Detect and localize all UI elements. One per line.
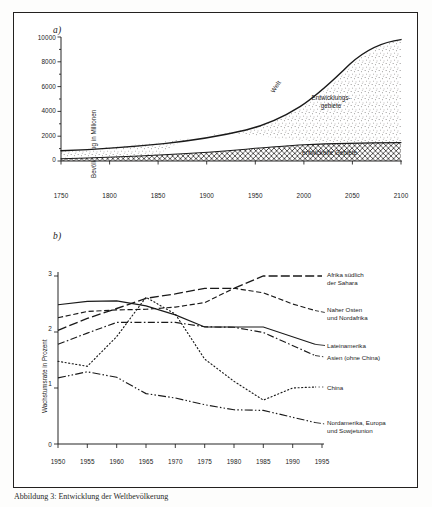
panel-b-label-asien: Asien (ohne China) — [327, 354, 380, 362]
panel-b-leader-lines — [315, 311, 325, 425]
panel-b-label-lateinamerika: Lateinamerika — [327, 342, 366, 350]
panel-b-label-naher-osten-line2: und Nordafrika — [327, 314, 368, 322]
panel-b-label-china-line1: China — [327, 384, 343, 392]
figure-caption: Abbildung 3: Entwicklung der Weltbevölke… — [14, 492, 418, 507]
panel-b-label-lateinamerika-line1: Lateinamerika — [327, 342, 366, 350]
panel-b-label-naher-osten-line1: Naher Osten — [327, 306, 368, 314]
panel-b-label-naher-osten: Naher Osten und Nordafrika — [327, 306, 368, 322]
panel-b-plot — [14, 13, 419, 489]
panel-b-series-nordamerika — [58, 372, 315, 423]
panel-b-label-china: China — [327, 384, 343, 392]
panel-b-label-nordamerika-line2: und Sowjetunion — [327, 427, 386, 435]
panel-b-y-ticks — [54, 276, 58, 444]
panel-b-series-china — [58, 297, 315, 400]
figure-page: a) Bevölkerung in Millionen 0 2000 4000 … — [0, 0, 432, 507]
panel-b-series-afrika — [58, 276, 322, 330]
panel-b-series-naher-osten — [58, 288, 315, 317]
figure-frame: a) Bevölkerung in Millionen 0 2000 4000 … — [13, 12, 418, 488]
panel-b-label-nordamerika-line1: Nordamerika, Europa — [327, 419, 386, 427]
panel-b-label-nordamerika: Nordamerika, Europa und Sowjetunion — [327, 419, 386, 435]
panel-b-x-ticks — [58, 444, 322, 448]
panel-b-series-asien — [58, 322, 315, 355]
panel-b-label-asien-line1: Asien (ohne China) — [327, 354, 380, 362]
panel-b-label-afrika-line1: Afrika südlich — [327, 271, 364, 279]
panel-b-label-afrika: Afrika südlich der Sahara — [327, 271, 364, 287]
panel-b-label-afrika-line2: der Sahara — [327, 279, 364, 287]
